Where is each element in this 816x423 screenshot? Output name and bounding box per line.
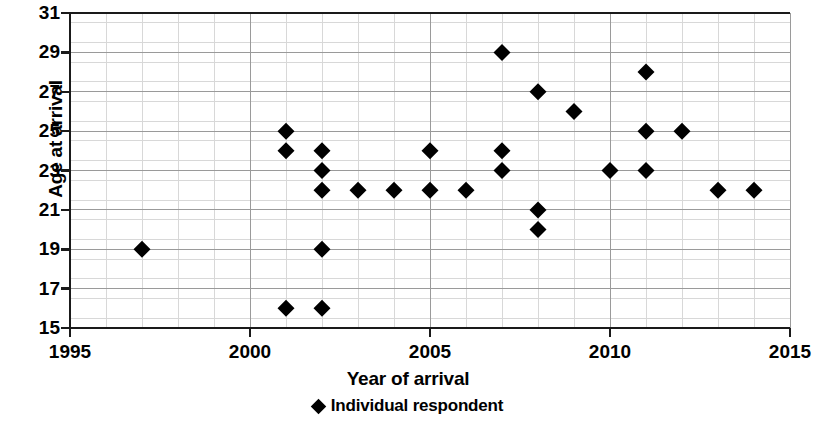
data-point-marker: [638, 123, 655, 140]
data-point-marker: [638, 64, 655, 81]
data-point-marker: [314, 162, 331, 179]
data-point-marker: [638, 162, 655, 179]
data-point-marker: [278, 123, 295, 140]
data-point-marker: [494, 162, 511, 179]
data-point-marker: [422, 142, 439, 159]
y-tick-label: 29: [14, 42, 60, 61]
y-tick-label: 19: [14, 239, 60, 258]
legend-label: Individual respondent: [331, 396, 503, 416]
y-tick-label: 17: [14, 279, 60, 298]
scatter-chart-figure: Age at arrival 312927252321191715 199520…: [0, 0, 816, 423]
y-tick-label: 25: [14, 121, 60, 140]
data-point-marker: [710, 182, 727, 199]
data-point-marker: [530, 201, 547, 218]
chart-legend: Individual respondent: [0, 396, 816, 416]
diamond-marker-icon: [311, 399, 327, 415]
x-tick-label: 2005: [395, 342, 465, 361]
data-point-marker: [386, 182, 403, 199]
data-point-marker: [134, 241, 151, 258]
data-point-marker: [530, 83, 547, 100]
x-tick-label: 2000: [215, 342, 285, 361]
data-point-marker: [278, 300, 295, 317]
y-tick-label: 15: [14, 318, 60, 337]
data-point-marker: [494, 44, 511, 61]
data-point-marker: [314, 182, 331, 199]
x-tick-label: 1995: [35, 342, 105, 361]
data-point-marker: [350, 182, 367, 199]
data-point-marker: [530, 221, 547, 238]
data-point-marker: [314, 142, 331, 159]
data-point-marker: [458, 182, 475, 199]
data-point-marker: [494, 142, 511, 159]
y-tick-label: 23: [14, 161, 60, 180]
x-tick-label: 2015: [755, 342, 816, 361]
data-point-marker: [602, 162, 619, 179]
y-tick-label: 21: [14, 200, 60, 219]
x-tick-label: 2010: [575, 342, 645, 361]
data-point-marker: [314, 300, 331, 317]
data-point-marker: [278, 142, 295, 159]
data-point-marker: [422, 182, 439, 199]
x-axis-title: Year of arrival: [0, 368, 816, 390]
y-tick-label: 31: [14, 3, 60, 22]
data-point-marker: [674, 123, 691, 140]
data-point-marker: [314, 241, 331, 258]
data-point-marker: [566, 103, 583, 120]
data-point-marker: [746, 182, 763, 199]
y-tick-label: 27: [14, 82, 60, 101]
